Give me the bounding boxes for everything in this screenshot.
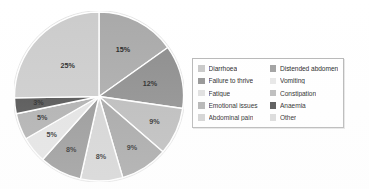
legend-label-diarrhoea: Diarrhoea: [209, 65, 238, 72]
legend-swatch-abdominal-pain: [198, 114, 205, 121]
pie-slice-value-label: 5%: [37, 113, 48, 122]
pie-slice-value-label: 9%: [149, 117, 160, 126]
pie-slice-value-label: 25%: [60, 61, 75, 70]
legend-item[interactable]: Failure to thrive: [198, 75, 267, 86]
pie-slice-value-label: 5%: [47, 130, 58, 139]
legend-swatch-anaemia: [270, 102, 277, 109]
legend-item[interactable]: Diarrhoea: [198, 63, 267, 74]
legend-item[interactable]: Emotional issues: [198, 100, 267, 111]
legend-swatch-fatigue: [198, 90, 205, 97]
legend-label-other: Other: [280, 114, 296, 121]
legend-swatch-vomiting: [270, 78, 277, 85]
legend-item[interactable]: Fatigue: [198, 88, 267, 99]
pie-slice-value-label: 8%: [96, 152, 107, 161]
legend-label-abdominal-pain: Abdominal pain: [209, 114, 254, 121]
pie-slice-value-label: 12%: [143, 79, 158, 88]
legend-column-left: Diarrhoea Failure to thrive Fatigue Emot…: [198, 63, 267, 123]
chart-legend: Diarrhoea Failure to thrive Fatigue Emot…: [192, 58, 344, 128]
legend-label-failure-to-thrive: Failure to thrive: [209, 77, 254, 84]
legend-item[interactable]: Distended abdomen: [270, 63, 339, 74]
legend-swatch-failure-to-thrive: [198, 78, 205, 85]
legend-column-right: Distended abdomen Vomiting Constipation …: [270, 63, 339, 123]
legend-label-distended-abdomen: Distended abdomen: [280, 65, 338, 72]
legend-label-vomiting: Vomiting: [280, 77, 305, 84]
legend-item[interactable]: Vomiting: [270, 75, 339, 86]
legend-swatch-diarrhoea: [198, 65, 205, 72]
legend-label-emotional-issues: Emotional issues: [209, 102, 258, 109]
legend-item[interactable]: Anaemia: [270, 100, 339, 111]
legend-swatch-distended-abdomen: [270, 65, 277, 72]
legend-item[interactable]: Abdominal pain: [198, 112, 267, 123]
pie-slice[interactable]: Other 25%: [15, 12, 100, 98]
legend-swatch-constipation: [270, 90, 277, 97]
pie-slice-value-label: 15%: [116, 45, 131, 54]
pie-slice-value-label: 3%: [33, 98, 44, 107]
legend-item[interactable]: Other: [270, 112, 339, 123]
legend-swatch-other: [270, 114, 277, 121]
pie-slice-value-label: 8%: [66, 145, 77, 154]
pie-slice-value-label: 9%: [127, 143, 138, 152]
pie-chart: Diarrhoea 15%Distended abdomen 12%Failur…: [14, 11, 184, 182]
pie-chart-figure: Diarrhoea 15%Distended abdomen 12%Failur…: [0, 0, 369, 189]
legend-label-fatigue: Fatigue: [209, 90, 231, 97]
legend-label-anaemia: Anaemia: [280, 102, 306, 109]
legend-swatch-emotional-issues: [198, 102, 205, 109]
legend-item[interactable]: Constipation: [270, 88, 339, 99]
legend-label-constipation: Constipation: [280, 90, 316, 97]
pie-svg: Diarrhoea 15%Distended abdomen 12%Failur…: [14, 11, 184, 182]
